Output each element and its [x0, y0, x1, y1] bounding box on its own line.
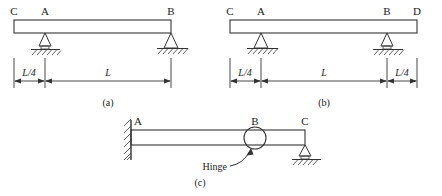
support-c-C	[292, 145, 321, 165]
panel-c: A B C Hinge (c)	[100, 110, 342, 196]
hinge-label: Hinge	[203, 161, 228, 172]
dimension-label-a-span: L	[104, 67, 111, 78]
dimension-b-quarter-left	[230, 79, 261, 84]
dimension-label-b-quarter-left: L/4	[237, 67, 251, 78]
node-label-a-A: A	[41, 5, 49, 17]
node-label-c-C: C	[301, 115, 308, 127]
node-label-b-C: C	[226, 5, 233, 17]
beam-a	[14, 20, 171, 33]
wall-hatch-c	[124, 119, 131, 160]
support-b-B	[373, 33, 404, 55]
panel-a: C A B	[0, 0, 221, 110]
ground-hatch-a-B	[158, 49, 188, 55]
ground-hatch-b-A	[248, 49, 278, 55]
beam-b	[230, 20, 417, 33]
node-label-a-B: B	[167, 5, 174, 17]
panel-b: C A B D	[221, 0, 442, 110]
node-label-a-C: C	[10, 5, 17, 17]
extension-lines-a	[14, 58, 171, 88]
support-a-A	[31, 33, 61, 55]
beam-c	[131, 130, 305, 145]
node-label-b-D: D	[413, 5, 421, 17]
node-label-b-A: A	[257, 5, 265, 17]
dimension-b-quarter-right	[387, 79, 417, 84]
hinge-callout-arrow	[230, 151, 250, 166]
support-a-B	[157, 33, 188, 54]
node-label-c-A: A	[134, 115, 142, 127]
ground-hatch-a-A	[32, 50, 61, 56]
caption-b: (b)	[318, 97, 330, 109]
dimension-a-quarter	[14, 79, 45, 84]
dimension-label-a-quarter: L/4	[21, 67, 35, 78]
ground-hatch-b-B	[374, 50, 404, 56]
support-b-A	[247, 33, 278, 54]
support-c-A-fixed-wall	[124, 119, 131, 160]
node-label-c-B: B	[251, 115, 258, 127]
caption-a: (a)	[102, 97, 113, 109]
dimension-label-b-quarter-right: L/4	[394, 67, 408, 78]
node-label-b-B: B	[383, 5, 390, 17]
dimension-label-b-span: L	[320, 67, 327, 78]
dimension-a-span	[45, 79, 171, 84]
caption-c: (c)	[194, 177, 205, 189]
dimension-b-span	[261, 79, 387, 84]
ground-hatch-c-C	[293, 160, 318, 166]
